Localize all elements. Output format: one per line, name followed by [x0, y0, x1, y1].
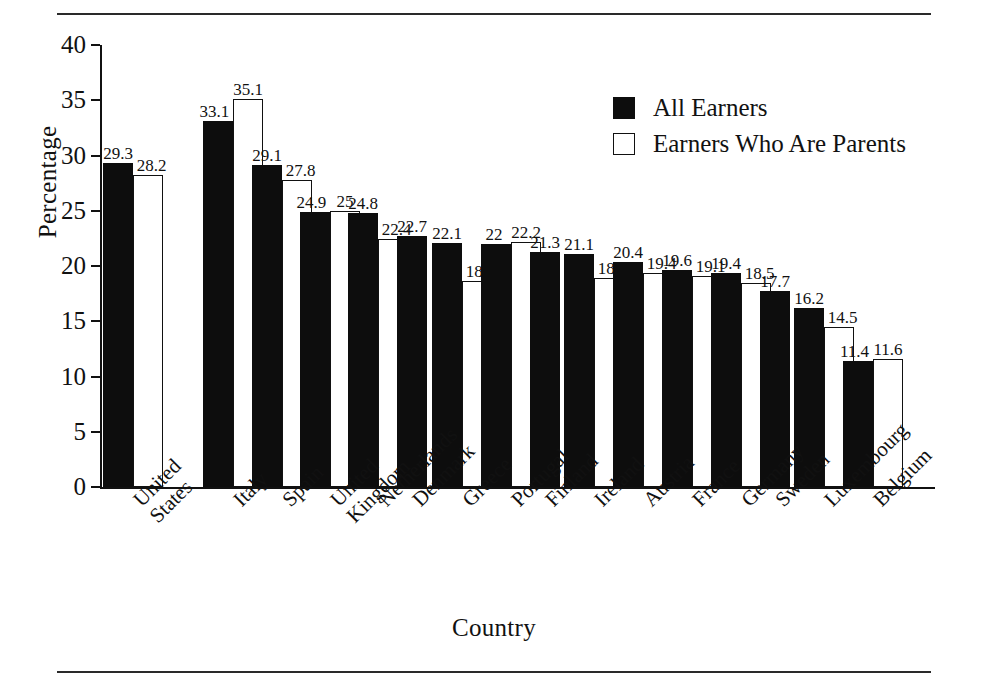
bar-earners-who-are-parents[interactable]: 28.2: [133, 175, 163, 487]
bar-value-label: 11.6: [873, 341, 902, 359]
bar-all-earners[interactable]: 29.3: [103, 163, 133, 487]
legend-swatch-icon: [613, 97, 635, 119]
bar-value-label: 22.7: [397, 218, 427, 236]
bar-value-label: 11.4: [840, 343, 869, 361]
y-axis-tick-label: 10: [20, 364, 86, 389]
y-axis-tick: [91, 99, 100, 101]
legend-item[interactable]: All Earners: [613, 90, 906, 126]
legend-label: All Earners: [653, 94, 768, 122]
bar-value-label: 19.6: [662, 252, 692, 270]
bar-all-earners[interactable]: 33.1: [203, 121, 233, 487]
y-axis-tick: [91, 210, 100, 212]
y-axis-tick: [91, 486, 100, 488]
bar-all-earners[interactable]: 20.4: [613, 262, 643, 487]
bar-value-label: 24.8: [348, 195, 378, 213]
y-axis-tick-label: 20: [20, 253, 86, 278]
bar-value-label: 21.3: [530, 234, 560, 252]
bar-value-label: 22.1: [432, 225, 462, 243]
y-axis-tick-label: 25: [20, 198, 86, 223]
bar-value-label: 19.4: [711, 255, 741, 273]
bar-value-label: 16.2: [794, 290, 824, 308]
legend-swatch-icon: [613, 133, 635, 155]
y-axis-tick-label: 35: [20, 87, 86, 112]
y-axis-tick: [91, 376, 100, 378]
y-axis-tick-label: 15: [20, 308, 86, 333]
bar-value-label: 22: [485, 226, 502, 244]
bar-all-earners[interactable]: 24.9: [300, 212, 330, 487]
y-axis-tick-label: 30: [20, 143, 86, 168]
y-axis-tick: [91, 155, 100, 157]
bar-value-label: 29.3: [103, 145, 133, 163]
bar-group: 29.328.2: [103, 45, 163, 487]
bar-value-label: 29.1: [252, 147, 282, 165]
chart-legend: All EarnersEarners Who Are Parents: [613, 90, 906, 162]
bar-value-label: 21.1: [564, 236, 594, 254]
bar-value-label: 20.4: [613, 244, 643, 262]
bar-all-earners[interactable]: 29.1: [252, 165, 282, 487]
bar-all-earners[interactable]: 22: [481, 244, 511, 487]
y-axis-tick-label: 0: [20, 474, 86, 499]
bar-value-label: 17.7: [760, 273, 790, 291]
bar-value-label: 24.9: [297, 194, 327, 212]
x-axis-title: Country: [0, 614, 988, 642]
bar-value-label: 28.2: [137, 157, 167, 175]
y-axis-tick-label: 5: [20, 419, 86, 444]
y-axis-tick: [91, 265, 100, 267]
bottom-rule: [57, 671, 931, 673]
bar-value-label: 33.1: [200, 103, 230, 121]
legend-item[interactable]: Earners Who Are Parents: [613, 126, 906, 162]
y-axis-tick-label: 40: [20, 32, 86, 57]
figure-container: Percentage Country 0510152025303540 29.3…: [0, 0, 988, 688]
y-axis-tick: [91, 44, 100, 46]
legend-label: Earners Who Are Parents: [653, 130, 906, 158]
y-axis-tick: [91, 320, 100, 322]
top-rule: [57, 13, 931, 15]
y-axis-tick: [91, 431, 100, 433]
